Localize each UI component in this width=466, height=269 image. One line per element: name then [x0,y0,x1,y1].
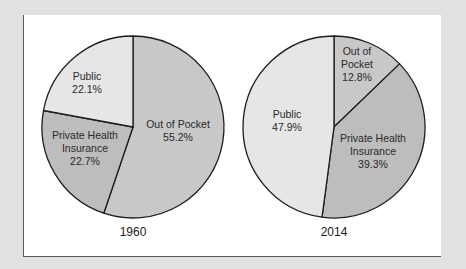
label-1960-out-of-pocket: Out of Pocket [146,118,210,130]
year-label-1960: 1960 [120,225,147,239]
label-1960-public: Public [73,70,102,82]
label-1960-private-line1: Private Health [52,129,118,141]
value-1960-out-of-pocket: 55.2% [163,131,193,143]
value-2014-private: 39.3% [358,158,388,170]
label-2014-out-of-pocket-line2: Pocket [341,58,373,70]
label-2014-private-line2: Insurance [350,145,396,157]
label-2014-public: Public [273,108,302,120]
label-2014-private-line1: Private Health [340,132,406,144]
value-2014-out-of-pocket: 12.8% [342,71,372,83]
label-2014-out-of-pocket-line1: Out of [343,45,372,57]
label-1960-private-line2: Insurance [62,142,108,154]
year-label-2014: 2014 [321,225,348,239]
value-1960-private: 22.7% [70,155,100,167]
pie-2014 [243,36,425,218]
value-2014-public: 47.9% [272,121,302,133]
value-1960-public: 22.1% [72,83,102,95]
pie-charts: Public 22.1% Out of Pocket 55.2% Private… [0,0,466,269]
